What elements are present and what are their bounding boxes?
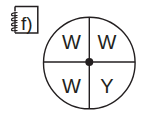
spiral-binding-icon xyxy=(11,12,17,34)
pivot-dot-icon xyxy=(85,58,93,66)
quadrant-bottom-right-label: Y xyxy=(100,75,113,97)
quadrant-bottom-left-label: W xyxy=(62,75,81,97)
notebook-icon: f) xyxy=(11,7,37,34)
quadrant-top-left-label: W xyxy=(62,31,81,53)
figure-canvas: f) W W W Y xyxy=(0,0,143,117)
quadrant-top-right-label: W xyxy=(98,31,117,53)
spinner: W W W Y xyxy=(44,17,136,109)
figure-label: f) xyxy=(21,13,33,34)
